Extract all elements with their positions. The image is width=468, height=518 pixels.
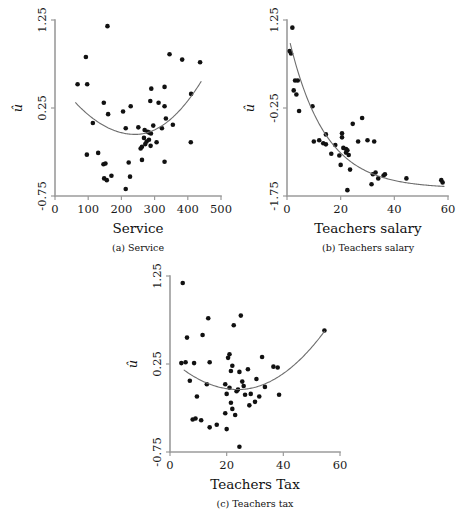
data-point [243,393,248,398]
data-points-c [179,281,327,449]
data-point [104,178,109,183]
x-axis-title-c: Teachers Tax [210,476,300,492]
data-point [207,360,212,365]
data-point [360,116,365,121]
data-points-a [75,24,202,191]
data-point [404,176,409,181]
y-tick-labels-b: -1.75-0.251.25 [267,7,281,211]
data-point [237,370,242,375]
data-point [253,400,258,405]
y-axis-title-c: û [125,360,140,368]
data-point [106,112,111,117]
data-point [229,400,234,405]
data-point [180,57,185,62]
data-point [275,365,280,370]
x-tick-labels-c: 0204060 [166,458,347,472]
data-point [126,160,131,165]
plot-area-b: 0204060 -1.75-0.251.25 [267,7,455,216]
x-tick-label: 0 [51,202,58,216]
y-axis-title-b: û [242,104,257,112]
data-point [171,122,176,127]
data-point [192,361,197,366]
data-point [207,425,212,430]
scatter-plot-teachers-tax: 0204060 -0.750.251.25 û Teachers Tax (c)… [118,262,358,514]
data-point [75,82,80,87]
data-point [369,182,374,187]
data-point [247,403,252,408]
plot-area-a: 0100200300400500 -0.750.251.25 [35,7,232,216]
panel-teachers-salary: 0204060 -1.75-0.251.25 û Teachers salary… [240,6,466,258]
x-axis-title-a: Service [112,220,163,236]
data-point [346,153,351,158]
data-point [440,180,445,185]
x-tick-labels-a: 0100200300400500 [51,202,232,216]
data-point [340,135,345,140]
x-tick-label: 500 [210,202,232,216]
x-tick-label: 40 [387,202,402,216]
data-point [128,104,133,109]
data-point [348,167,353,172]
y-tick-label: 1.25 [35,7,49,33]
data-point [123,126,128,131]
data-point [103,161,108,166]
data-point [260,355,265,360]
y-tick-label: 1.25 [267,7,281,33]
data-point [317,138,322,143]
data-point [149,86,154,91]
data-point [277,393,282,398]
x-tick-label: 200 [110,202,132,216]
data-point [329,151,334,156]
panel-service: 0100200300400500 -0.750.251.25 û Service… [8,6,234,258]
data-point [230,407,235,412]
data-point [185,335,190,340]
data-point [297,109,302,114]
data-point [162,104,167,109]
data-point [263,385,268,390]
x-tick-label: 0 [166,458,173,472]
data-point [96,151,101,156]
data-point [193,416,198,421]
data-point [248,392,253,397]
data-point [356,139,361,144]
y-axis-title-a: û [10,104,25,112]
data-point [121,109,126,114]
data-point [271,364,276,369]
data-point [224,392,229,397]
data-point [257,394,262,399]
y-tick-labels-a: -0.750.251.25 [35,7,49,211]
data-point [195,394,200,399]
data-point [290,25,295,30]
figure-residual-plots: 0100200300400500 -0.750.251.25 û Service… [0,0,468,518]
x-tick-labels-b: 0204060 [283,202,455,216]
x-tick-label: 60 [441,202,456,216]
data-point [162,85,167,90]
data-point [246,367,251,372]
data-point [105,24,110,29]
data-point [340,131,345,136]
y-tick-label: 0.25 [35,95,49,121]
data-point [162,159,167,164]
data-point [372,139,377,144]
panel-teachers-tax: 0204060 -0.750.251.25 û Teachers Tax (c)… [118,262,358,514]
data-point [383,172,388,177]
data-point [91,121,96,126]
fitted-curve-c [184,331,324,389]
x-tick-label: 40 [276,458,291,472]
data-point [102,100,107,105]
data-point [148,144,153,149]
data-point [231,323,236,328]
y-tick-labels-c: -0.750.251.25 [150,263,164,467]
data-point [229,369,234,374]
panel-caption-b: (b) Teachers salary [322,242,415,253]
x-tick-label: 20 [219,458,234,472]
data-point [85,82,90,87]
x-tick-label: 300 [144,202,166,216]
data-point [109,173,114,178]
data-point [164,116,169,121]
data-point [167,52,172,57]
x-tick-label: 100 [77,202,99,216]
data-point [188,378,193,383]
data-point [233,413,238,418]
data-point [206,316,211,321]
panel-caption-a: (a) Service [112,242,164,253]
